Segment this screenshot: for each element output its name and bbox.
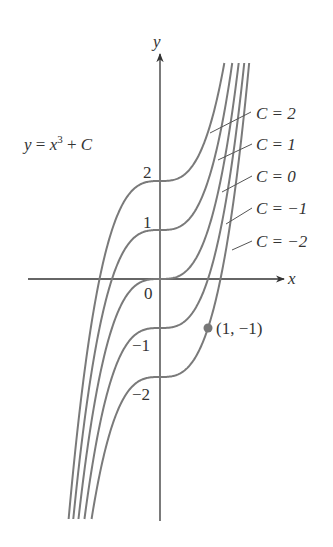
leader-line-cneg1 <box>226 208 252 224</box>
series-labels: C = 2 C = 1 C = 0 C = −1 C = −2 <box>256 104 308 251</box>
y-tick-label-2: 2 <box>143 163 152 182</box>
series-label-c0: C = 0 <box>256 167 296 186</box>
highlight-point <box>204 324 213 333</box>
curve-c-2 <box>92 63 250 519</box>
y-axis-label: y <box>151 32 161 51</box>
highlight-point-label: (1, −1) <box>216 319 262 338</box>
series-label-c2: C = 2 <box>256 104 296 123</box>
origin-label: 0 <box>144 284 153 303</box>
curve-c0 <box>78 63 238 519</box>
series-label-c1: C = 1 <box>256 135 296 154</box>
leader-line-cneg2 <box>232 241 252 250</box>
series-label-cneg1: C = −1 <box>256 199 307 218</box>
leader-lines <box>210 112 252 250</box>
x-axis-label: x <box>287 269 296 288</box>
y-tick-label-1: 1 <box>143 213 152 232</box>
series-label-cneg2: C = −2 <box>256 232 308 251</box>
curve-group <box>69 63 250 519</box>
cubic-family-chart: x y 0 2 1 −1 −2 y = x3 + C C = 2 C = 1 C… <box>0 0 333 547</box>
y-tick-label-neg2: −2 <box>132 385 150 404</box>
y-tick-label-neg1: −1 <box>132 336 150 355</box>
equation-label: y = x3 + C <box>22 133 93 154</box>
